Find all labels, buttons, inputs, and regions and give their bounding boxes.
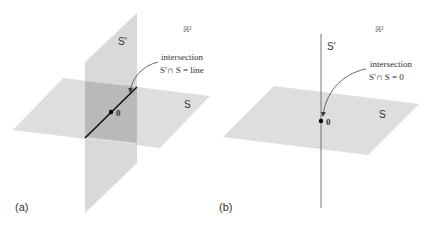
subspace-intersection-figure: 0 S′ S ℝ³ intersection S′∩ S = line (a) … [0, 0, 433, 229]
plane-s-label: S [184, 99, 191, 110]
plane-s-label: S [379, 109, 386, 120]
annotation-line2: S′∩ S = line [160, 65, 204, 75]
space-label: ℝ³ [375, 25, 384, 34]
origin-dot [109, 110, 113, 114]
origin-label: 0 [326, 117, 331, 127]
line-s-prime-label: S′ [327, 41, 336, 52]
panel-a: 0 S′ S ℝ³ intersection S′∩ S = line (a) [13, 13, 210, 213]
annotation-line1: intersection [370, 59, 412, 69]
origin-label: 0 [116, 108, 121, 118]
annotation-line1: intersection [161, 52, 203, 62]
panel-label: (b) [219, 201, 232, 213]
origin-dot [319, 119, 323, 123]
plane-s-prime-label: S′ [118, 36, 127, 47]
annotation-line2: S′∩ S = 0 [369, 72, 404, 82]
panel-b: 0 S′ S ℝ³ intersection S′∩ S = 0 (b) [219, 25, 419, 213]
panel-label: (a) [15, 201, 28, 213]
space-label: ℝ³ [183, 25, 192, 34]
